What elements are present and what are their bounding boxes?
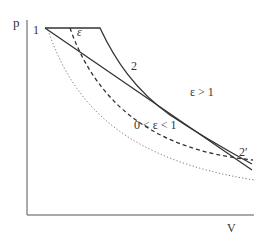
pv-diagram: p V 1 2 2′ ε ε > 1 0 < ε < 1 [0,0,267,240]
epsilon-gt-1-label: ε > 1 [190,85,214,99]
dashed-curve [70,28,253,160]
point-2prime-label: 2′ [239,145,248,159]
x-axis-label: V [227,221,236,235]
y-axis-label: p [13,15,20,30]
point-1-label: 1 [33,23,39,37]
dotted-curve [48,30,254,180]
point-2-label: 2 [131,59,137,73]
epsilon-between-label: 0 < ε < 1 [134,118,177,132]
isobar-then-curve [45,28,252,164]
epsilon-label: ε [77,25,82,39]
